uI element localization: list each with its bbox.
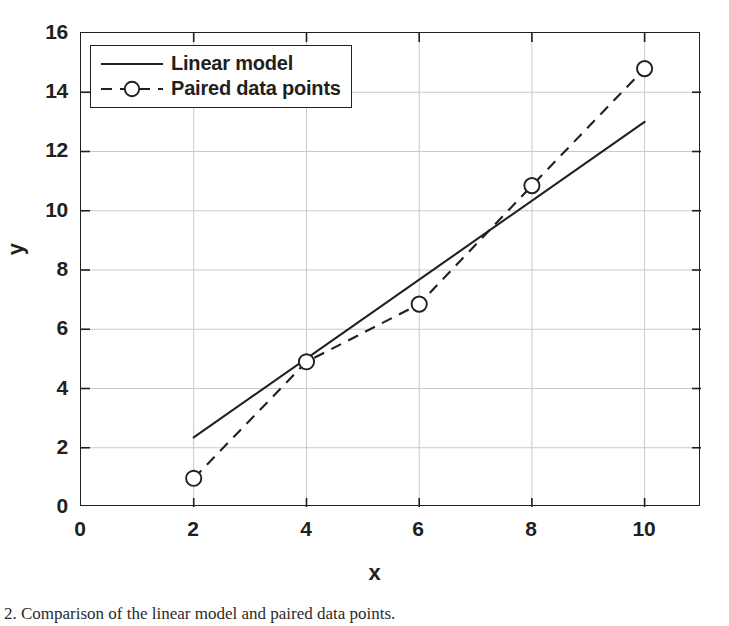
x-tick-10: 10 (633, 517, 656, 541)
figure-caption-text: 2. Comparison of the linear model and pa… (0, 604, 395, 624)
figure-caption: 2. Comparison of the linear model and pa… (0, 604, 729, 624)
x-tick-6: 6 (412, 517, 423, 541)
x-tick-4: 4 (300, 517, 311, 541)
data-point-marker (412, 297, 427, 312)
legend-entry-linear-model: Linear model (99, 51, 341, 76)
y-tick-12: 12 (45, 138, 68, 162)
data-point-marker (186, 471, 201, 486)
horizontal-gridlines (81, 92, 701, 448)
data-point-marker (524, 178, 539, 193)
y-tick-16: 16 (45, 20, 68, 44)
data-point-marker (299, 354, 314, 369)
y-tick-0: 0 (57, 494, 68, 518)
y-tick-6: 6 (57, 316, 68, 340)
x-axis-label: x (0, 560, 729, 586)
y-tick-4: 4 (57, 376, 68, 400)
y-tick-2: 2 (57, 435, 68, 459)
legend-swatch-dashed-line-with-circle (99, 79, 165, 99)
figure-container: 16 14 12 10 8 6 4 2 0 y (0, 0, 729, 626)
legend-label-paired-data-points: Paired data points (171, 77, 341, 100)
legend: Linear model Paired data points (90, 45, 352, 108)
y-tick-10: 10 (45, 198, 68, 222)
y-tick-14: 14 (45, 79, 68, 103)
x-tick-0: 0 (74, 517, 85, 541)
x-axis-label-text: x (368, 560, 380, 586)
data-point-marker (637, 61, 652, 76)
legend-entry-paired-data-points: Paired data points (99, 76, 341, 101)
legend-swatch-solid-line (99, 54, 165, 74)
legend-label-linear-model: Linear model (171, 52, 293, 75)
x-axis-tick-labels: 0 2 4 6 8 10 (0, 517, 729, 547)
x-tick-8: 8 (525, 517, 536, 541)
x-tick-2: 2 (187, 517, 198, 541)
y-axis-label: y (3, 243, 29, 255)
y-tick-8: 8 (57, 257, 68, 281)
